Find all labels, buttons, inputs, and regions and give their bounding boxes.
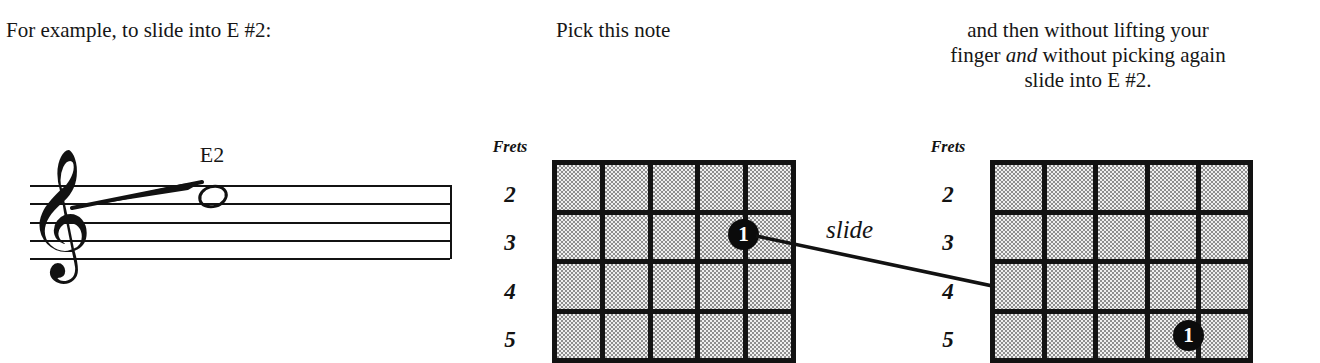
fret-cell <box>1098 215 1145 260</box>
diagram-1-fret-label-4: 4 <box>479 279 541 305</box>
fret-cell <box>1201 165 1248 210</box>
music-staff-panel: E2 𝄞 <box>12 136 452 276</box>
staff-slide-line-icon <box>70 178 206 210</box>
fret-cell <box>557 215 600 260</box>
instruction-line-3: slide into E #2. <box>1024 68 1151 92</box>
fret-cell <box>1201 215 1248 260</box>
fret-cell <box>700 264 743 309</box>
diagram-2-fret-labels: Frets 2 3 4 5 <box>917 138 979 358</box>
fret-cell <box>557 264 600 309</box>
diagram-1-fret-label-3: 3 <box>479 230 541 256</box>
fret-cell <box>1150 264 1197 309</box>
fret-cell <box>1150 215 1197 260</box>
fret-cell <box>995 215 1042 260</box>
instruction-line-2-prefix: finger <box>950 43 1005 67</box>
fret-cell <box>605 314 648 359</box>
fret-cell <box>1201 264 1248 309</box>
treble-clef-icon: 𝄞 <box>26 156 92 268</box>
fret-cell <box>653 264 696 309</box>
instruction-line-1: and then without lifting your <box>967 18 1208 42</box>
diagram-2-fret-label-2: 2 <box>917 182 979 208</box>
fret-cell <box>605 165 648 210</box>
pick-note-caption: Pick this note <box>556 18 670 43</box>
fret-cell <box>653 215 696 260</box>
diagram-2-fret-label-4: 4 <box>917 279 979 305</box>
fret-cell <box>1098 314 1145 359</box>
note-name-label: E2 <box>172 142 252 168</box>
fret-cell <box>557 165 600 210</box>
fret-cell <box>1201 314 1248 359</box>
staff-line-5 <box>30 258 450 260</box>
instruction-emphasis-and: and <box>1006 43 1038 67</box>
fret-cell <box>1150 165 1197 210</box>
staff-line-4 <box>30 240 450 242</box>
diagram-1-fret-label-5: 5 <box>479 327 541 353</box>
fretboard-diagram-target[interactable] <box>990 160 1253 363</box>
fret-cell <box>1098 165 1145 210</box>
staff-end-barline <box>450 185 452 259</box>
diagram-2-frets-title: Frets <box>917 138 979 156</box>
diagram-1-fret-label-2: 2 <box>479 182 541 208</box>
fret-cell <box>700 314 743 359</box>
diagram-1-frets-title: Frets <box>479 138 541 156</box>
fret-cell <box>748 165 791 210</box>
fret-cell <box>995 165 1042 210</box>
intro-caption: For example, to slide into E #2: <box>6 18 271 43</box>
fret-cell <box>700 165 743 210</box>
diagram-2-fret-label-5: 5 <box>917 327 979 353</box>
staff-line-3 <box>30 222 450 224</box>
fret-cell <box>995 264 1042 309</box>
fret-cell <box>557 314 600 359</box>
slide-instruction-caption: and then without lifting your finger and… <box>862 18 1314 93</box>
fret-cell <box>653 314 696 359</box>
fret-cell <box>605 215 648 260</box>
fret-cell <box>1047 264 1094 309</box>
diagram-1-fret-labels: Frets 2 3 4 5 <box>479 138 541 358</box>
diagram-2-fret-label-3: 3 <box>917 230 979 256</box>
fret-cell <box>995 314 1042 359</box>
fret-cell <box>1098 264 1145 309</box>
fret-cell <box>1047 165 1094 210</box>
fret-cell <box>605 264 648 309</box>
finger-marker-2[interactable]: 1 <box>1173 320 1204 351</box>
fret-cell <box>1047 215 1094 260</box>
fret-cell <box>653 165 696 210</box>
instruction-line-2-suffix: without picking again <box>1037 43 1225 67</box>
fret-cell <box>1047 314 1094 359</box>
